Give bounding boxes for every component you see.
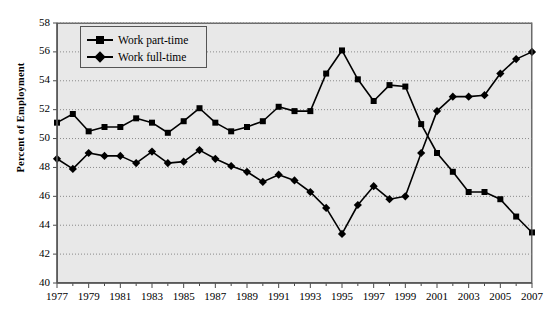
- y-tick-label: 52: [18, 102, 50, 114]
- legend: Work part-time Work full-time: [80, 26, 207, 68]
- diamond-marker-icon: [87, 51, 113, 63]
- y-tick-label: 56: [18, 44, 50, 56]
- y-tick-label: 54: [18, 73, 50, 85]
- x-tick-label: 2007: [510, 290, 547, 302]
- y-tick-label: 44: [18, 218, 50, 230]
- legend-label-full-time: Work full-time: [113, 51, 186, 63]
- square-marker-icon: [87, 34, 113, 46]
- employment-line-chart: Percent of Employment 404244464850525456…: [0, 0, 547, 317]
- y-tick-label: 46: [18, 189, 50, 201]
- y-tick-label: 42: [18, 247, 50, 259]
- y-tick-label: 50: [18, 131, 50, 143]
- y-tick-label: 40: [18, 276, 50, 288]
- y-tick-label: 58: [18, 16, 50, 28]
- legend-item-full-time: Work full-time: [87, 48, 200, 65]
- legend-label-part-time: Work part-time: [113, 34, 188, 46]
- y-tick-label: 48: [18, 160, 50, 172]
- legend-item-part-time: Work part-time: [87, 31, 200, 48]
